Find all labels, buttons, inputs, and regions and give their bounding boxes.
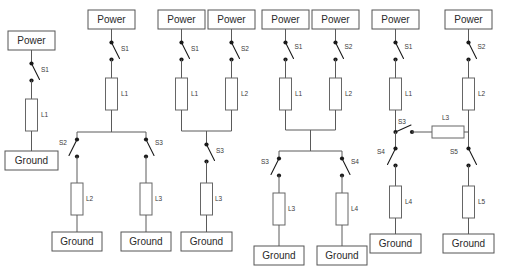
switch-s1[interactable]: S1 xyxy=(179,40,199,61)
power-source-box[interactable]: Power xyxy=(262,10,309,29)
switch-s3-label: S3 xyxy=(155,139,163,146)
resistor-l1-rect xyxy=(176,78,188,110)
switch-s2[interactable]: S2 xyxy=(229,40,249,61)
switch-s4[interactable]: S4 xyxy=(340,156,359,177)
power-box-label: Power xyxy=(321,14,350,25)
resistor-l4[interactable]: L4 xyxy=(390,186,413,218)
switch-s1[interactable]: S1 xyxy=(29,61,49,82)
switch-s3-label: S3 xyxy=(398,118,406,125)
ground-box[interactable]: Ground xyxy=(52,232,102,251)
resistor-l1[interactable]: L1 xyxy=(26,99,49,131)
resistor-l2-label: L2 xyxy=(86,195,94,202)
power-source-box[interactable]: Power xyxy=(208,10,255,29)
ground-box[interactable]: Ground xyxy=(254,246,304,265)
switch-s1[interactable]: S1 xyxy=(393,40,412,61)
resistor-l2-rect xyxy=(330,78,342,110)
resistor-l3[interactable]: L3 xyxy=(140,183,163,215)
resistor-l1[interactable]: L1 xyxy=(280,78,303,110)
ground-box-label: Ground xyxy=(262,250,295,261)
switch-s1-label: S1 xyxy=(41,66,49,73)
resistor-l1-label: L1 xyxy=(295,90,303,97)
power-source-box[interactable]: Power xyxy=(88,10,135,29)
resistor-l2-label: L2 xyxy=(241,90,249,97)
resistor-l2[interactable]: L2 xyxy=(226,78,249,110)
switch-blade xyxy=(336,43,344,59)
resistor-l2-label: L2 xyxy=(345,90,353,97)
switch-s2[interactable]: S2 xyxy=(333,40,352,61)
switch-s1-label: S1 xyxy=(295,43,303,50)
resistor-l1[interactable]: L1 xyxy=(390,78,413,110)
switch-s3-label: S3 xyxy=(261,158,269,165)
resistor-l3[interactable]: L3 xyxy=(201,183,223,215)
switch-s2[interactable]: S2 xyxy=(466,40,485,61)
switch-s1[interactable]: S1 xyxy=(109,40,129,61)
resistor-l2-rect xyxy=(226,78,238,110)
resistor-l3-rect xyxy=(201,183,213,215)
switch-blade xyxy=(286,43,294,59)
power-source-box[interactable]: Power xyxy=(372,10,419,29)
resistor-l2[interactable]: L2 xyxy=(463,78,486,110)
ground-box[interactable]: Ground xyxy=(370,234,421,253)
switch-s3-label: S3 xyxy=(216,147,224,154)
resistor-l1[interactable]: L1 xyxy=(106,78,129,110)
resistor-l1[interactable]: L1 xyxy=(176,78,199,110)
ground-box[interactable]: Ground xyxy=(317,246,367,265)
ground-box[interactable]: Ground xyxy=(443,234,494,253)
resistor-l1-label: L1 xyxy=(121,90,129,97)
switch-s2-label: S2 xyxy=(345,43,353,50)
ground-box-label: Ground xyxy=(15,155,48,166)
switch-s4-label: S4 xyxy=(351,158,359,165)
resistor-l5-label: L5 xyxy=(478,198,486,205)
switch-s1-label: S1 xyxy=(405,43,413,50)
resistor-l1-label: L1 xyxy=(191,90,199,97)
switch-s4[interactable]: S4 xyxy=(377,146,398,167)
resistor-l3[interactable]: L3 xyxy=(273,193,296,225)
ground-box-label: Ground xyxy=(60,236,93,247)
resistor-l1-rect xyxy=(106,78,118,110)
power-source-box[interactable]: Power xyxy=(158,10,205,29)
circuit-1: Power S1 L1 Ground xyxy=(5,31,58,170)
switch-blade xyxy=(469,149,477,165)
resistor-l3-label: L3 xyxy=(155,195,163,202)
switch-blade xyxy=(469,43,477,59)
resistor-l2[interactable]: L2 xyxy=(71,183,94,215)
resistor-l5[interactable]: L5 xyxy=(463,186,486,218)
resistor-l4-label: L4 xyxy=(405,198,413,205)
switch-s1-label: S1 xyxy=(191,45,199,52)
power-source-box[interactable]: Power xyxy=(312,10,359,29)
resistor-l1-rect xyxy=(390,78,402,110)
switch-s3[interactable]: S3 xyxy=(204,142,224,163)
switch-s1[interactable]: S1 xyxy=(283,40,302,61)
resistor-l3-label: L3 xyxy=(215,195,223,202)
switch-blade xyxy=(388,149,396,165)
resistor-l1-label: L1 xyxy=(41,111,49,118)
switch-blade xyxy=(112,43,120,59)
circuit-3: Power Power S1 S2 L1 L xyxy=(158,10,255,251)
switch-s5[interactable]: S5 xyxy=(450,146,477,167)
ground-box[interactable]: Ground xyxy=(5,151,58,170)
resistor-l2-rect xyxy=(71,183,83,215)
switch-s2-label: S2 xyxy=(241,45,249,52)
switch-s2[interactable]: S2 xyxy=(59,137,79,158)
ground-box-label: Ground xyxy=(452,238,485,249)
resistor-l2-label: L2 xyxy=(478,90,486,97)
resistor-l3-rect xyxy=(140,183,152,215)
power-source-box[interactable]: Power xyxy=(445,10,492,29)
switch-s3[interactable]: S3 xyxy=(144,137,163,158)
power-source-box[interactable]: Power xyxy=(8,31,55,50)
ground-box[interactable]: Ground xyxy=(121,232,171,251)
ground-box-label: Ground xyxy=(379,238,412,249)
power-box-label: Power xyxy=(271,14,300,25)
switch-s3[interactable]: S3 xyxy=(261,156,281,177)
resistor-l2[interactable]: L2 xyxy=(330,78,353,110)
power-box-label: Power xyxy=(217,14,246,25)
resistor-l3[interactable]: L3 xyxy=(432,114,464,138)
ground-box-label: Ground xyxy=(325,250,358,261)
switch-s3[interactable]: S3 xyxy=(393,118,414,134)
switch-s2-label: S2 xyxy=(59,139,67,146)
switch-s1-label: S1 xyxy=(121,45,129,52)
resistor-l4[interactable]: L4 xyxy=(336,193,359,225)
power-box-label: Power xyxy=(17,35,46,46)
resistor-l1-rect xyxy=(280,78,292,110)
ground-box[interactable]: Ground xyxy=(181,232,232,251)
